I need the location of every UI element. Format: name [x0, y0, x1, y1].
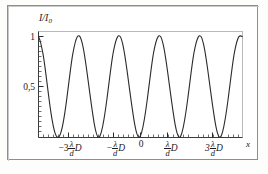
x-axis-label: x: [246, 140, 250, 149]
y-tick-label-1: 1: [23, 33, 35, 43]
lambda-symbol: λ: [68, 140, 74, 148]
lambda-over-d-fraction: λd: [112, 140, 118, 158]
lambda-over-d-fraction: λd: [210, 140, 216, 158]
distance-D-symbol: D: [171, 143, 178, 153]
x-tick-label-minus-lambda-d-D: −λdD: [98, 140, 134, 158]
x-tick-label-3-lambda-d-D: 3λdD: [194, 140, 234, 158]
figure-root: I/I0 1 0,5 −3λdD −λdD 0 λdD 3λdD x: [0, 0, 268, 174]
distance-D-symbol: D: [118, 143, 125, 153]
lambda-symbol: λ: [112, 140, 118, 148]
lambda-symbol: λ: [164, 140, 170, 148]
d-symbol: d: [68, 149, 74, 158]
y-tick-label-0-5: 0,5: [14, 83, 35, 93]
d-symbol: d: [164, 149, 170, 158]
plot-area: I/I0 1 0,5 −3λdD −λdD 0 λdD 3λdD x: [0, 0, 268, 174]
x-tick-label-minus-3-lambda-d-D: −3λdD: [50, 140, 90, 158]
x-tick-label-lambda-d-D: λdD: [153, 140, 189, 158]
x-tick-sign-coef-minus3: −3: [58, 143, 68, 153]
x-tick-label-zero: 0: [131, 140, 151, 150]
distance-D-symbol: D: [75, 143, 82, 153]
y-axis-label-subscript: 0: [48, 17, 52, 25]
d-symbol: d: [210, 149, 216, 158]
lambda-over-d-fraction: λd: [164, 140, 170, 158]
lambda-symbol: λ: [210, 140, 216, 148]
y-axis-label: I/I0: [39, 13, 52, 25]
distance-D-symbol: D: [216, 143, 223, 153]
d-symbol: d: [112, 149, 118, 158]
lambda-over-d-fraction: λd: [68, 140, 74, 158]
